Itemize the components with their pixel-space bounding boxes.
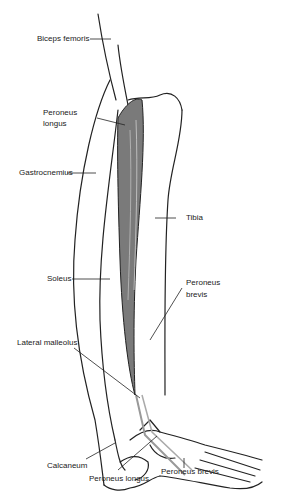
label-calcaneum: Calcaneum [47, 461, 87, 471]
label-peroneus-longus-upper-2: longus [43, 119, 67, 129]
label-peroneus-brevis-lower: Peroneus brevis [161, 467, 219, 477]
label-peroneus-longus-lower: Peroneus longus [89, 474, 149, 484]
label-soleus: Soleus [47, 274, 71, 284]
label-peroneus-brevis-upper-2: brevis [186, 290, 207, 300]
label-tibia: Tibia [186, 213, 203, 223]
leg-illustration [0, 0, 286, 498]
label-gastrocnemius: Gastrocnemius [19, 168, 73, 178]
anatomy-diagram: Biceps femoris Peroneus longus Gastrocne… [0, 0, 286, 498]
label-biceps-femoris: Biceps femoris [37, 34, 89, 44]
label-peroneus-longus-upper-1: Peroneus [43, 108, 77, 118]
label-lateral-malleolus: Lateral malleolus [17, 338, 77, 348]
label-peroneus-brevis-upper-1: Peroneus [186, 278, 220, 288]
